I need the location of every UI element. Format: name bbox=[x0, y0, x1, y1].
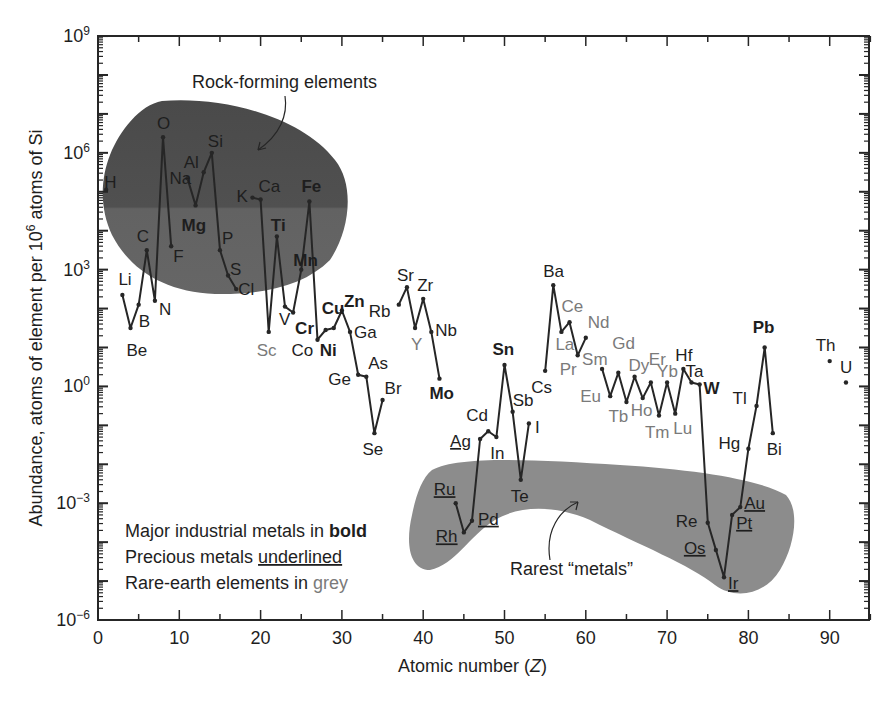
element-label-v: V bbox=[279, 310, 291, 329]
data-point-lu bbox=[673, 411, 677, 415]
y-tick-label: 109 bbox=[63, 24, 90, 46]
element-label-i: I bbox=[535, 418, 540, 437]
data-point-sr bbox=[405, 285, 409, 289]
element-label-bi: Bi bbox=[767, 440, 782, 459]
data-point-eu bbox=[608, 394, 612, 398]
y-tick-label: 100 bbox=[63, 374, 90, 396]
element-label-h: H bbox=[104, 173, 116, 192]
data-point-os bbox=[714, 548, 718, 552]
element-label-co: Co bbox=[292, 341, 314, 360]
y-tick-label: 106 bbox=[63, 141, 90, 163]
data-point-ba bbox=[551, 283, 555, 287]
element-label-cs: Cs bbox=[531, 378, 552, 397]
data-point-sb bbox=[510, 410, 514, 414]
style-legend: Major industrial metals in bold Precious… bbox=[125, 521, 367, 593]
element-label-cd: Cd bbox=[466, 406, 488, 425]
data-point-nd bbox=[584, 336, 588, 340]
element-label-pd: Pd bbox=[478, 510, 499, 529]
element-label-o: O bbox=[157, 114, 170, 133]
element-label-mg: Mg bbox=[182, 216, 207, 235]
x-tick-label: 50 bbox=[494, 628, 514, 648]
element-label-sc: Sc bbox=[257, 341, 277, 360]
element-label-al: Al bbox=[184, 153, 199, 172]
x-tick-label: 90 bbox=[820, 628, 840, 648]
element-label-dy: Dy bbox=[629, 356, 650, 375]
data-point-k bbox=[250, 195, 254, 199]
data-point-tl bbox=[754, 404, 758, 408]
x-tick-label: 60 bbox=[576, 628, 596, 648]
element-label-zr: Zr bbox=[417, 276, 433, 295]
element-label-ta: Ta bbox=[685, 362, 704, 381]
element-label-cl: Cl bbox=[238, 280, 254, 299]
data-point-n bbox=[153, 299, 157, 303]
element-label-sr: Sr bbox=[397, 266, 414, 285]
element-label-nb: Nb bbox=[435, 321, 457, 340]
element-label-nd: Nd bbox=[588, 313, 610, 332]
data-point-v bbox=[283, 304, 287, 308]
data-point-ho bbox=[641, 396, 645, 400]
element-label-eu: Eu bbox=[580, 387, 601, 406]
data-point-y bbox=[413, 326, 417, 330]
rarest-metals-label: Rarest “metals” bbox=[510, 559, 633, 579]
data-point-pt bbox=[730, 513, 734, 517]
legend-grey-line: Rare-earth elements in grey bbox=[125, 573, 348, 593]
element-label-u: U bbox=[840, 358, 852, 377]
element-label-si: Si bbox=[208, 132, 223, 151]
element-label-re: Re bbox=[676, 512, 698, 531]
y-tick-label: 10−6 bbox=[56, 608, 90, 630]
data-point-o bbox=[161, 135, 165, 139]
data-point-ce bbox=[567, 320, 571, 324]
element-label-tb: Tb bbox=[608, 407, 628, 426]
data-point-li bbox=[120, 293, 124, 297]
abundance-chart: 10910610310010−310−6 0102030405060708090… bbox=[0, 0, 893, 705]
data-point-bi bbox=[771, 431, 775, 435]
data-point-sc bbox=[267, 330, 271, 334]
element-label-c: C bbox=[137, 227, 149, 246]
data-point-al bbox=[201, 170, 205, 174]
element-label-rb: Rb bbox=[369, 302, 391, 321]
data-point-b bbox=[136, 302, 140, 306]
data-point-cr bbox=[291, 310, 295, 314]
element-label-cu: Cu bbox=[322, 299, 345, 318]
data-point-as bbox=[364, 374, 368, 378]
x-tick-label: 80 bbox=[738, 628, 758, 648]
data-point-yb bbox=[665, 380, 669, 384]
element-label-li: Li bbox=[118, 270, 131, 289]
x-tick-label: 10 bbox=[169, 628, 189, 648]
legend-bold-line: Major industrial metals in bold bbox=[125, 521, 367, 541]
element-label-be: Be bbox=[127, 341, 148, 360]
x-axis-title: Atomic number (Z) bbox=[398, 656, 547, 676]
data-point-si bbox=[210, 151, 214, 155]
data-point-rb bbox=[397, 302, 401, 306]
y-tick-label: 10−3 bbox=[56, 491, 90, 513]
element-label-ni: Ni bbox=[320, 341, 337, 360]
data-point-th bbox=[828, 359, 832, 363]
element-label-lu: Lu bbox=[673, 419, 692, 438]
data-point-nb bbox=[429, 330, 433, 334]
element-label-pr: Pr bbox=[560, 360, 577, 379]
element-label-s: S bbox=[230, 260, 241, 279]
element-label-br: Br bbox=[385, 379, 402, 398]
element-label-n: N bbox=[159, 300, 171, 319]
data-point-er bbox=[649, 380, 653, 384]
data-point-dy bbox=[632, 374, 636, 378]
x-tick-label: 40 bbox=[413, 628, 433, 648]
data-point-fe bbox=[307, 199, 311, 203]
element-label-ru: Ru bbox=[434, 480, 456, 499]
data-point-p bbox=[218, 248, 222, 252]
data-point-c bbox=[145, 248, 149, 252]
element-label-f: F bbox=[173, 247, 183, 266]
data-point-gd bbox=[616, 371, 620, 375]
data-point-zr bbox=[421, 297, 425, 301]
element-label-ir: Ir bbox=[728, 574, 739, 593]
data-point-ga bbox=[348, 330, 352, 334]
element-label-la: La bbox=[555, 335, 574, 354]
element-label-tl: Tl bbox=[733, 389, 747, 408]
x-tick-label: 20 bbox=[251, 628, 271, 648]
element-label-ti: Ti bbox=[271, 216, 286, 235]
element-label-y: Y bbox=[411, 335, 422, 354]
data-point-rh bbox=[462, 530, 466, 534]
data-point-hg bbox=[746, 447, 750, 451]
element-label-fe: Fe bbox=[301, 177, 321, 196]
data-point-tb bbox=[624, 400, 628, 404]
